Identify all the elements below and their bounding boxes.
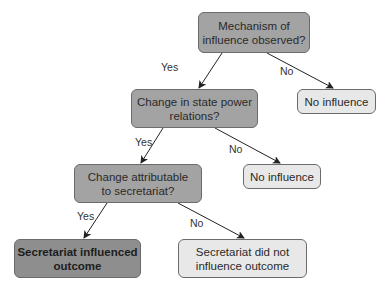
- node-secretariat-influenced: Secretariat influenced outcome: [14, 239, 141, 278]
- node-no-influence-2: No influence: [243, 164, 321, 189]
- edge-q3-no3: [178, 203, 244, 238]
- edge-label-no-1: No: [280, 66, 293, 77]
- edge-q2-no2: [215, 128, 280, 163]
- edge-label-no-3: No: [190, 218, 203, 229]
- edge-q1-no1: [267, 53, 333, 88]
- edge-q1-q2: [199, 53, 222, 88]
- edge-label-yes-2: Yes: [135, 137, 152, 148]
- node-change-attributable: Change attributable to secretariat?: [74, 164, 202, 203]
- node-mechanism-of-influence: Mechanism of influence observed?: [198, 12, 310, 53]
- edge-label-yes-1: Yes: [161, 62, 178, 73]
- node-change-in-state-power: Change in state power relations?: [131, 89, 258, 128]
- edge-label-yes-3: Yes: [77, 211, 94, 222]
- node-secretariat-did-not-influence: Secretariat did not influence outcome: [178, 239, 307, 278]
- edge-label-no-2: No: [229, 144, 242, 155]
- node-no-influence-1: No influence: [297, 89, 376, 114]
